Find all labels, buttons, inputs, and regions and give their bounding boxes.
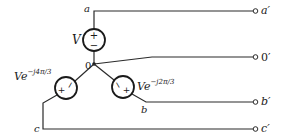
source-b-label-exponent: −j2π/3 — [150, 78, 174, 86]
source-a-label: V — [72, 33, 82, 47]
wire-source-b-to-b — [132, 94, 253, 102]
terminal-a-prime-label: a′ — [261, 4, 271, 17]
terminal-neutral-prime — [253, 55, 258, 60]
wire-neutral-to-source-b — [94, 64, 114, 80]
phase-a-branch: + − V a a′ — [72, 3, 271, 64]
phase-b-branch: + − Ve−j2π/3 b b′ — [94, 64, 271, 115]
wire-neutral — [94, 57, 253, 64]
source-c-label: Ve−j4π/3 — [14, 68, 52, 83]
terminal-c-prime — [253, 127, 258, 132]
plus-sign-b: + — [123, 85, 131, 95]
terminal-b-prime — [253, 100, 258, 105]
wire-a-top — [94, 11, 253, 29]
minus-sign-a: − — [90, 40, 98, 51]
source-c-label-base: Ve — [14, 70, 28, 83]
circuit-diagram: + − V a a′ 0 0′ + − Ve−j4π/3 c c′ + − Ve — [0, 0, 284, 140]
wire-source-c-to-c — [43, 95, 253, 129]
terminal-a-prime — [253, 9, 258, 14]
terminal-c-prime-label: c′ — [261, 122, 270, 135]
source-c-label-exponent: −j4π/3 — [27, 68, 51, 76]
terminal-b-prime-label: b′ — [261, 95, 271, 108]
terminal-neutral-prime-label: 0′ — [261, 51, 271, 64]
node-a-label: a — [84, 3, 90, 14]
source-b-label: Ve−j2π/3 — [137, 78, 175, 93]
node-b-label: b — [141, 104, 147, 115]
neutral-branch: 0 0′ — [85, 51, 271, 71]
node-c-label: c — [34, 123, 40, 134]
source-b-label-base: Ve — [137, 80, 151, 93]
